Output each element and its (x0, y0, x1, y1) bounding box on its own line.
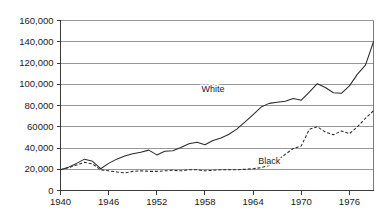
gridlines (61, 21, 374, 191)
x-tick-label: 1958 (194, 196, 215, 207)
series-label-white: White (201, 84, 224, 94)
y-tick-label: 60000 (27, 121, 53, 132)
series-label-black: Black (258, 156, 281, 166)
x-tick-label: 1946 (98, 196, 119, 207)
line-chart: 160,000140,000120,000100,00080,000600004… (0, 0, 391, 217)
y-tick-label: 100,000 (19, 78, 53, 89)
x-tick-label: 1952 (146, 196, 167, 207)
x-axis-tick-labels: 1940194619521958196419701976 (50, 196, 360, 207)
x-tick-label: 1964 (243, 196, 264, 207)
x-tick-label: 1970 (291, 196, 312, 207)
y-tick-label: 120,000 (19, 57, 53, 68)
y-tick-label: 160,000 (19, 15, 53, 26)
x-axis-ticks (61, 191, 350, 195)
x-tick-label: 1976 (339, 196, 360, 207)
x-tick-label: 1940 (50, 196, 71, 207)
y-tick-label: 40,000 (24, 142, 53, 153)
y-tick-label: 140,000 (19, 36, 53, 47)
y-tick-label: 0 (48, 185, 53, 196)
y-tick-label: 80,000 (24, 100, 53, 111)
y-axis-tick-labels: 160,000140,000120,000100,00080,000600004… (19, 15, 53, 196)
data-series (61, 42, 374, 173)
y-tick-label: 20,000 (24, 163, 53, 174)
chart-canvas: 160,000140,000120,000100,00080,000600004… (0, 0, 391, 217)
